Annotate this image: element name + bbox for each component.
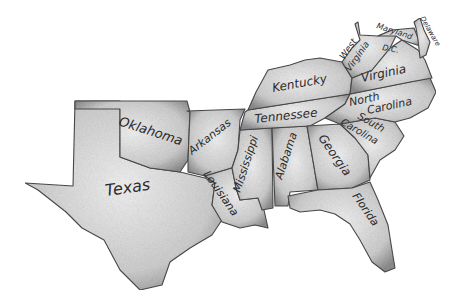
southern-states-map: Oklahoma Texas Arkansas Louisiana Missis… (0, 0, 462, 295)
state-florida[interactable] (288, 182, 395, 272)
